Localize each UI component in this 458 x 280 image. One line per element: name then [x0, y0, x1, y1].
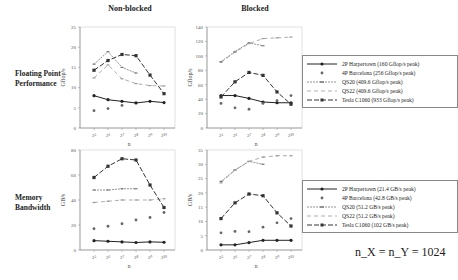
legend-item: 4P Barcelona (42.8 GB/s peak) [307, 193, 453, 202]
svg-text:n: n [255, 263, 258, 269]
legend-flops: 2P Harpertown (160 Gflop/s peak) 4P Barc… [302, 55, 458, 108]
svg-text:30: 30 [198, 162, 204, 167]
legend-bandwidth: 2P Harpertown (21.4 GB/s peak) 4P Barcel… [302, 180, 458, 233]
legend-item: QS20 (51.2 GB/s peak) [307, 202, 453, 211]
svg-text:10: 10 [71, 85, 77, 90]
tesla-line-icon [307, 96, 337, 104]
svg-text:2⁷: 2⁷ [247, 133, 252, 138]
svg-text:2⁵: 2⁵ [219, 255, 224, 260]
svg-text:35: 35 [198, 148, 204, 153]
svg-text:20: 20 [71, 223, 77, 228]
svg-text:2⁶: 2⁶ [233, 133, 238, 138]
svg-text:2⁶: 2⁶ [106, 133, 111, 138]
chart-0: 05101520252⁵2⁶2⁷2⁸2⁹2¹⁰nGflop/s [60, 25, 175, 147]
svg-text:2¹⁰: 2¹⁰ [161, 133, 167, 138]
svg-text:20: 20 [198, 191, 204, 196]
svg-text:0: 0 [201, 248, 204, 253]
barcelona-marker-icon [307, 69, 337, 77]
svg-text:5: 5 [74, 106, 77, 111]
svg-text:100: 100 [196, 54, 204, 59]
svg-text:10: 10 [198, 219, 204, 224]
svg-text:20: 20 [198, 111, 204, 116]
legend-item: 4P Barcelona (256 Gflop/s peak) [307, 68, 453, 77]
svg-text:25: 25 [71, 25, 77, 30]
qs20-line-icon [307, 203, 337, 211]
svg-text:2⁷: 2⁷ [120, 133, 125, 138]
svg-text:2⁹: 2⁹ [275, 255, 280, 260]
qs22-line-icon [307, 212, 337, 220]
svg-text:60: 60 [71, 173, 77, 178]
chart-2: 0204060802⁵2⁶2⁷2⁸2⁹2¹⁰nGB/s [60, 148, 175, 269]
problem-size-note: n_X = n_Y = 1024 [355, 245, 445, 260]
chart-3: 051015202530352⁵2⁶2⁷2⁸2⁹2¹⁰nGB/s [187, 148, 302, 269]
svg-text:15: 15 [198, 205, 204, 210]
svg-text:25: 25 [198, 176, 204, 181]
svg-text:2⁹: 2⁹ [275, 133, 280, 138]
legend-item: QS20 (409.6 Gflop/s peak) [307, 77, 453, 86]
tesla-line-icon [307, 221, 337, 229]
svg-text:40: 40 [198, 97, 204, 102]
svg-text:2¹⁰: 2¹⁰ [288, 255, 294, 260]
svg-text:n: n [128, 263, 131, 269]
legend-item: 2P Harpertown (21.4 GB/s peak) [307, 184, 453, 193]
svg-text:80: 80 [198, 68, 204, 73]
svg-text:2⁸: 2⁸ [134, 255, 139, 260]
svg-text:Gflop/s: Gflop/s [187, 68, 193, 87]
svg-text:2⁵: 2⁵ [219, 133, 224, 138]
svg-text:2⁷: 2⁷ [247, 255, 252, 260]
svg-text:40: 40 [71, 198, 77, 203]
legend-item: Tesla C1060 (933 Gflop/s peak) [307, 95, 453, 104]
chart-1: 0204060801001201402⁵2⁶2⁷2⁸2⁹2¹⁰nGflop/s [187, 25, 302, 147]
svg-text:2¹⁰: 2¹⁰ [288, 133, 294, 138]
svg-text:2⁹: 2⁹ [148, 255, 153, 260]
harpertown-line-icon [307, 185, 337, 193]
svg-text:15: 15 [71, 65, 77, 70]
svg-text:n: n [128, 141, 131, 147]
svg-text:2⁶: 2⁶ [106, 255, 111, 260]
svg-text:2⁸: 2⁸ [134, 133, 139, 138]
svg-text:120: 120 [196, 39, 204, 44]
svg-text:60: 60 [198, 83, 204, 88]
svg-text:0: 0 [201, 126, 204, 131]
svg-text:2⁹: 2⁹ [148, 133, 153, 138]
barcelona-marker-icon [307, 194, 337, 202]
svg-text:80: 80 [71, 148, 77, 153]
svg-text:GB/s: GB/s [60, 193, 66, 206]
svg-text:2⁶: 2⁶ [233, 255, 238, 260]
charts-canvas: 05101520252⁵2⁶2⁷2⁸2⁹2¹⁰nGflop/s020406080… [0, 0, 458, 280]
svg-text:2⁷: 2⁷ [120, 255, 125, 260]
svg-text:0: 0 [74, 248, 77, 253]
svg-text:2¹⁰: 2¹⁰ [161, 255, 167, 260]
qs20-line-icon [307, 78, 337, 86]
svg-text:2⁸: 2⁸ [261, 133, 266, 138]
svg-text:5: 5 [201, 234, 204, 239]
legend-item: QS22 (409.6 Gflop/s peak) [307, 86, 453, 95]
svg-text:GB/s: GB/s [187, 193, 193, 206]
svg-text:2⁸: 2⁸ [261, 255, 266, 260]
svg-text:2⁵: 2⁵ [92, 133, 97, 138]
svg-text:20: 20 [71, 45, 77, 50]
svg-text:140: 140 [196, 25, 204, 30]
legend-item: QS22 (51.2 GB/s peak) [307, 211, 453, 220]
svg-text:2⁵: 2⁵ [92, 255, 97, 260]
qs22-line-icon [307, 87, 337, 95]
svg-text:0: 0 [74, 126, 77, 131]
svg-text:Gflop/s: Gflop/s [60, 68, 66, 87]
legend-item: 2P Harpertown (160 Gflop/s peak) [307, 59, 453, 68]
harpertown-line-icon [307, 60, 337, 68]
legend-item: Tesla C1060 (102 GB/s peak) [307, 220, 453, 229]
svg-text:n: n [255, 141, 258, 147]
